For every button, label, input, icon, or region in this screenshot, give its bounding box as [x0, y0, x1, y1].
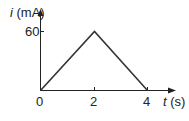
x-tick-label-0: 0	[36, 94, 43, 109]
y-tick-label-60: 60	[25, 24, 39, 39]
x-axis-label: t (s)	[163, 94, 185, 109]
current-waveform	[41, 32, 148, 91]
x-tick-label-2: 2	[90, 94, 97, 109]
x-axis-arrow-icon	[168, 88, 176, 94]
y-axis-label: i (mA)	[10, 5, 45, 20]
chart: i (mA) 60 0 2 4 t (s)	[0, 0, 189, 121]
x-tick-label-4: 4	[143, 94, 150, 109]
